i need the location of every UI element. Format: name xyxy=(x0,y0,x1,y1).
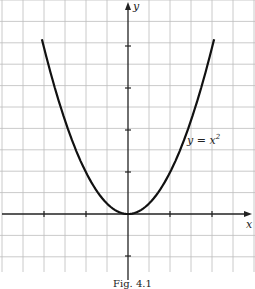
y-axis xyxy=(125,2,131,280)
parabola-chart: y x y = x2 Fig. 4.1 xyxy=(0,0,255,289)
curve-label: y = x2 xyxy=(186,133,221,147)
x-axis-label: x xyxy=(246,218,253,231)
y-axis-label: y xyxy=(132,0,140,13)
figure-caption: Fig. 4.1 xyxy=(113,278,152,289)
